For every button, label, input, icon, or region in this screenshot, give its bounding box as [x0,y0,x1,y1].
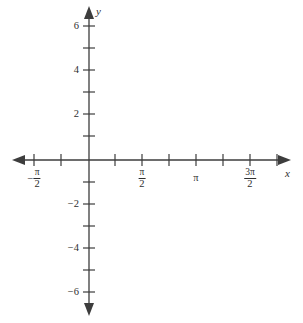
x-tick-label-3pi-over-2: 3π 2 [244,168,256,190]
fraction-numerator: π [139,168,146,179]
coordinate-plane-figure: 6 4 2 −2 −4 −6 − π 2 π 2 π 3π 2 y x [0,0,303,323]
y-axis-arrow-up [84,6,94,19]
fraction-numerator: 3π [244,168,256,179]
fraction-pi-over-2: π 2 [139,168,146,190]
fraction-denominator: 2 [139,179,146,190]
fraction-neg-pi-over-2: π 2 [34,168,41,190]
fraction-numerator: π [34,168,41,179]
y-tick-label-2: 2 [74,109,79,120]
y-axis-arrow-down [84,303,94,316]
x-axis-group [12,154,291,166]
fraction-denominator: 2 [34,179,41,190]
x-axis-arrow-right [278,155,291,165]
y-axis-group [83,6,95,316]
x-tick-label-pi-over-2: π 2 [139,168,146,190]
x-tick-label-neg-pi-over-2: − π 2 [27,168,40,190]
pi-glyph: π [193,172,198,183]
x-tick-label-pi: π [193,173,198,184]
y-tick-label-4: 4 [74,65,79,76]
y-tick-label-6: 6 [74,21,79,32]
y-tick-label-neg2: −2 [68,199,79,210]
x-axis-label: x [285,168,290,179]
y-axis-label: y [96,6,101,17]
fraction-denominator: 2 [244,179,256,190]
axes-svg [0,0,303,323]
fraction-3pi-over-2: 3π 2 [244,168,256,190]
y-tick-label-neg6: −6 [68,287,79,298]
x-axis-arrow-left [12,155,25,165]
y-tick-label-neg4: −4 [68,243,79,254]
